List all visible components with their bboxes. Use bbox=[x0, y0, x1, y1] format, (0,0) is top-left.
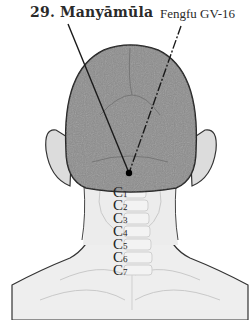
reference-point-label: Fengfu GV-16 bbox=[160, 6, 235, 22]
acupoint-marker bbox=[126, 170, 132, 176]
vertebra-label-c7: C7 bbox=[113, 261, 128, 279]
point-title: 29. Manyāmūla bbox=[30, 4, 153, 20]
